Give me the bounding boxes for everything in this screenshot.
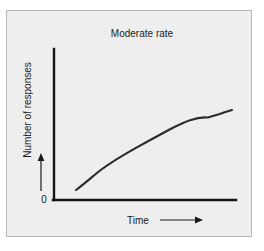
origin-label: 0 xyxy=(41,194,47,205)
chart-title: Moderate rate xyxy=(111,28,174,39)
arrow-right-icon xyxy=(160,217,203,224)
figure-root: Moderate rate 0 Number of responses Time xyxy=(0,0,264,251)
y-axis-label: Number of responses xyxy=(22,62,33,158)
x-axis-label: Time xyxy=(127,215,149,226)
arrow-up-icon xyxy=(38,153,45,191)
moderate-rate-line-chart: Moderate rate 0 Number of responses Time xyxy=(0,0,264,251)
data-curve-moderate-rate xyxy=(76,110,232,190)
